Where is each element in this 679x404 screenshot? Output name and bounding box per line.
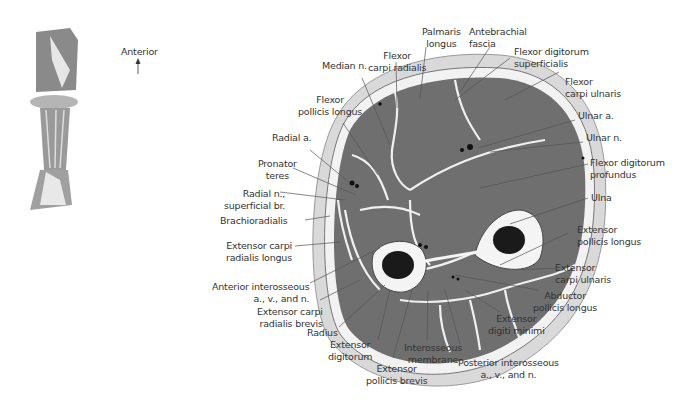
label-pronator-teres: Pronatorteres: [258, 158, 297, 182]
label-radial-n-superficial: Radial n.,superficial br.: [224, 188, 285, 212]
label-extensor-digiti-minimi: Extensordigiti minimi: [488, 313, 545, 337]
forearm-thumbnail: [30, 28, 78, 210]
label-radius: Radius: [307, 327, 338, 339]
label-median-n: Median n.: [322, 60, 367, 72]
label-flexor-pollicis-longus: Flexorpollicis longus: [298, 94, 362, 118]
label-extensor-carpi-radialis-longus: Extensor carpiradialis longus: [226, 240, 292, 264]
label-ulnar-n: Ulnar n.: [586, 132, 622, 144]
label-flexor-digitorum-superficialis: Flexor digitorumsuperficialis: [514, 46, 589, 70]
label-ulna: Ulna: [591, 192, 612, 204]
label-abductor-pollicis-longus: Abductorpollicis longus: [533, 290, 597, 314]
label-extensor-pollicis-longus: Extensorpollicis longus: [577, 224, 641, 248]
up-arrow-icon: [136, 58, 141, 74]
label-brachioradialis: Brachioradialis: [220, 215, 287, 227]
anterior-label: Anterior: [121, 46, 158, 58]
label-palmaris-longus: Palmarislongus: [422, 26, 461, 50]
label-flexor-carpi-radialis: Flexorcarpi radialis: [368, 50, 426, 74]
label-flexor-carpi-ulnaris: Flexorcarpi ulnaris: [565, 76, 621, 100]
label-flexor-digitorum-profundus: Flexor digitorumprofundus: [590, 157, 665, 181]
label-extensor-pollicis-brevis: Extensorpollicis brevis: [366, 363, 427, 387]
label-extensor-digitorum: Extensordigitorum: [328, 339, 372, 363]
label-radial-a: Radial a.: [272, 132, 311, 144]
label-ulnar-a: Ulnar a.: [578, 110, 614, 122]
label-anterior-interosseous: Anterior interosseousa., v., and n.: [212, 281, 309, 305]
label-extensor-carpi-ulnaris: Extensorcarpi ulnaris: [555, 262, 611, 286]
label-posterior-interosseous: Posterior interosseousa., v., and n.: [458, 357, 559, 381]
